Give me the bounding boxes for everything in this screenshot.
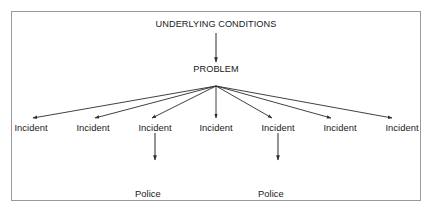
node-incident-5: Incident — [261, 122, 294, 134]
node-incident-1: Incident — [14, 122, 47, 134]
diagram-canvas: UNDERLYING CONDITIONS PROBLEM Incident I… — [0, 0, 433, 210]
node-police-response-2: Police Response — [258, 165, 301, 210]
node-incident-4: Incident — [199, 122, 232, 134]
node-police-response-1: Police Response — [135, 165, 178, 210]
diagram-graphics — [0, 0, 433, 210]
node-problem: PROBLEM — [193, 64, 238, 76]
node-incident-6: Incident — [323, 122, 356, 134]
police-response-1-line-1: Police — [135, 188, 178, 200]
police-response-2-line-1: Police — [258, 188, 301, 200]
node-underlying-conditions: UNDERLYING CONDITIONS — [156, 19, 277, 31]
node-incident-7: Incident — [385, 122, 418, 134]
node-incident-2: Incident — [76, 122, 109, 134]
node-incident-3: Incident — [138, 122, 171, 134]
